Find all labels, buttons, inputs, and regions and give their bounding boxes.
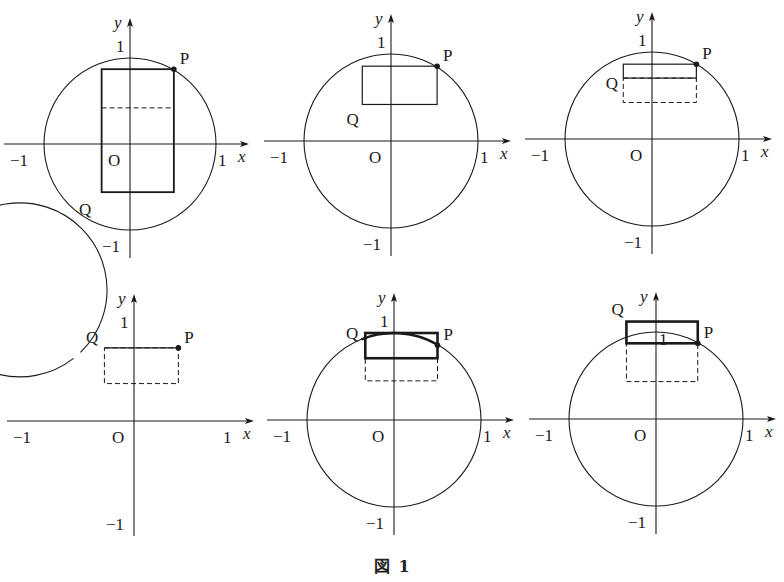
origin-label: O xyxy=(108,151,120,170)
point-p-label: P xyxy=(443,46,452,65)
origin-label: O xyxy=(112,428,124,447)
y-axis-label: y xyxy=(638,287,648,306)
point-p-label: P xyxy=(184,328,193,347)
y-axis-label: y xyxy=(634,7,644,26)
tick-label-one-x: 1 xyxy=(745,426,754,445)
tick-label-minus-one-x: −1 xyxy=(270,148,288,167)
origin-label: O xyxy=(634,426,646,445)
tick-label-one-y: 1 xyxy=(120,313,129,332)
tick-label-one-y: 1 xyxy=(377,33,386,52)
tick-label-one-y: 1 xyxy=(380,312,389,331)
tick-label-one-x: 1 xyxy=(223,428,232,447)
origin-label: O xyxy=(630,146,642,165)
tick-label-minus-one-x: −1 xyxy=(13,428,31,447)
point-p-marker xyxy=(694,61,700,67)
x-axis-label: x xyxy=(760,142,769,161)
diagram-panel-4: PQyxO−11−11 xyxy=(0,203,254,536)
tick-label-one-y: 1 xyxy=(116,37,125,56)
point-q-label: Q xyxy=(611,300,623,319)
point-p-label: P xyxy=(180,49,189,68)
rectangle xyxy=(102,69,174,192)
caption-number: 1 xyxy=(398,557,409,576)
y-axis-label: y xyxy=(376,288,386,307)
y-axis-label: y xyxy=(112,13,122,32)
rectangle xyxy=(362,66,437,104)
diagram-panel-3: PQyxO−11−11 xyxy=(525,7,772,254)
x-axis-label: x xyxy=(502,423,511,442)
tick-label-one-x: 1 xyxy=(483,427,492,446)
tick-label-one-x: 1 xyxy=(480,148,489,167)
y-axis-label: y xyxy=(373,9,383,28)
x-axis-label: x xyxy=(237,147,246,166)
point-p-marker xyxy=(434,63,440,69)
unit-circle xyxy=(0,203,107,377)
point-p-label: P xyxy=(444,325,453,344)
point-p-marker xyxy=(435,342,441,348)
tick-label-one-x: 1 xyxy=(218,151,227,170)
tick-label-minus-one-y: −1 xyxy=(624,233,642,252)
tick-label-minus-one-x: −1 xyxy=(10,151,28,170)
tick-label-minus-one-x: −1 xyxy=(273,427,291,446)
x-axis-label: x xyxy=(242,424,251,443)
point-p-label: P xyxy=(704,323,713,342)
point-p-marker xyxy=(176,345,182,351)
tick-label-one-y: 1 xyxy=(659,330,668,349)
y-axis-label: y xyxy=(116,289,126,308)
figure-caption: 図1 xyxy=(0,553,784,577)
point-q-label: Q xyxy=(346,324,358,343)
dashed-rectangle xyxy=(365,358,437,381)
caption-prefix: 図 xyxy=(374,557,390,576)
diagram-panel-1: PQyxO−11−11 xyxy=(4,13,249,258)
bold-arc xyxy=(361,333,437,345)
tick-label-one-y: 1 xyxy=(638,31,647,50)
point-p-label: P xyxy=(702,44,711,63)
figure-diagram: PQyxO−11−11PQyxO−11−11PQyxO−11−11PQyxO−1… xyxy=(0,0,784,582)
origin-label: O xyxy=(372,427,384,446)
point-p-marker xyxy=(171,66,177,72)
origin-label: O xyxy=(369,148,381,167)
tick-label-minus-one-y: −1 xyxy=(102,237,120,256)
rectangle xyxy=(365,333,437,358)
tick-label-one-x: 1 xyxy=(741,146,750,165)
tick-label-minus-one-y: −1 xyxy=(628,513,646,532)
point-p-marker xyxy=(695,341,701,347)
point-q-label: Q xyxy=(346,110,358,129)
dashed-rectangle xyxy=(623,78,696,102)
tick-label-minus-one-y: −1 xyxy=(366,514,384,533)
tick-label-minus-one-x: −1 xyxy=(535,426,553,445)
point-q-label: Q xyxy=(86,328,98,347)
rectangle xyxy=(623,64,696,78)
point-q-label: Q xyxy=(79,200,91,219)
tick-label-minus-one-x: −1 xyxy=(531,146,549,165)
diagram-panel-5: PQyxO−11−11 xyxy=(267,288,514,535)
x-axis-label: x xyxy=(764,422,773,441)
diagram-panel-6: PQyxO−11−11 xyxy=(529,287,776,534)
point-q-label: Q xyxy=(606,74,618,93)
x-axis-label: x xyxy=(499,144,508,163)
tick-label-minus-one-y: −1 xyxy=(106,515,124,534)
tick-label-minus-one-y: −1 xyxy=(363,235,381,254)
diagram-panel-2: PQyxO−11−11 xyxy=(264,9,511,256)
dashed-rectangle xyxy=(626,343,697,381)
dashed-rectangle xyxy=(104,348,178,384)
